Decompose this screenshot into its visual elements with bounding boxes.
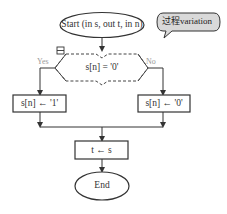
callout-label: 过程variation xyxy=(162,17,212,26)
end-node-label: End xyxy=(75,181,129,191)
start-node-label: Start (in s, out t, in n) xyxy=(60,20,144,30)
no-action-label[interactable]: s[n] ← '0' xyxy=(138,99,190,109)
yes-action-label[interactable]: s[n] ← '1' xyxy=(13,99,66,109)
decision-condition-label[interactable]: s[n] = '0' xyxy=(70,63,134,73)
no-branch-label: No xyxy=(146,58,156,66)
yes-branch-label: Yes xyxy=(37,58,49,66)
assign-label[interactable]: t ← s xyxy=(75,146,128,156)
collapse-icon[interactable] xyxy=(57,47,64,54)
